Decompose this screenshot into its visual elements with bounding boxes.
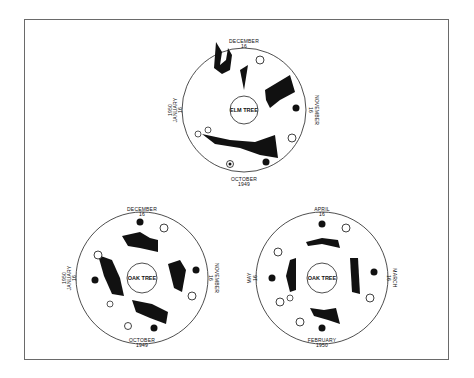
moon-phase-icon: [205, 127, 211, 133]
oak-tree-1949-dial: OAK TREE DECEMBER 16 OCTOBER 1949 1950 J…: [40, 200, 230, 350]
center-label: OAK TREE: [308, 275, 337, 281]
bottom-year-label: 1949: [238, 181, 250, 187]
moon-phase-icon: [107, 301, 113, 307]
center-label: ELM TREE: [230, 107, 258, 113]
oak-tree-1950-dial: OAK TREE APRIL 16 FEBRUARY 1950 MAY 16 M…: [250, 200, 440, 350]
top-day-label: 16: [241, 43, 247, 49]
right-day-label: 16: [386, 275, 392, 281]
center-label: OAK TREE: [128, 275, 157, 281]
bottom-year-label: 1950: [316, 342, 328, 348]
top-day-label: 16: [139, 211, 145, 217]
moon-phase-icon: [287, 295, 293, 301]
top-day-label: 16: [319, 211, 325, 217]
moon-phase-icon: [195, 131, 201, 137]
left-day-label: 16: [71, 275, 77, 281]
left-day-label: 16: [252, 275, 258, 281]
elm-tree-dial: ELM TREE DECEMBER 16 OCTOBER 1949 1950 J…: [170, 30, 320, 190]
left-day-label: 16: [177, 107, 183, 113]
bottom-year-label: 1949: [136, 342, 148, 348]
right-day-label: 16: [308, 107, 314, 113]
right-day-label: 16: [208, 275, 214, 281]
